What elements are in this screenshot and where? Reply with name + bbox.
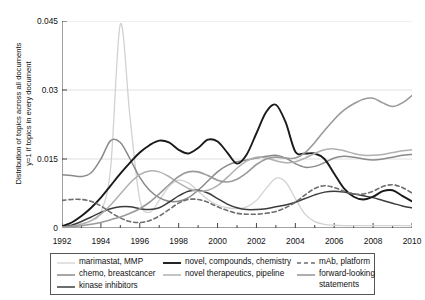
legend-line-icon [297, 270, 315, 280]
x-tick-label: 2000 [208, 236, 227, 246]
legend-item[interactable]: forward-looking statements [297, 269, 397, 280]
legend-line-icon [163, 270, 181, 280]
series-line-1 [62, 139, 412, 202]
x-tick-label: 1996 [130, 236, 149, 246]
x-tick-label: 1994 [92, 236, 111, 246]
legend-line-icon [57, 270, 75, 280]
legend-line-icon [297, 258, 315, 268]
y-tick-label: 0 [53, 223, 58, 233]
x-tick-label: 2010 [403, 236, 422, 246]
series-line-5 [62, 185, 412, 223]
legend-line-icon [57, 258, 75, 268]
legend-label: novel therapeutics, pipeline [185, 269, 284, 279]
x-tick-label: 2002 [247, 236, 266, 246]
legend-label: forward-looking statements [319, 269, 397, 290]
legend-label: kinase inhibitors [79, 281, 138, 291]
chart-root: Distribution of topics across all docume… [0, 0, 425, 300]
legend-item[interactable]: novel therapeutics, pipeline [163, 269, 291, 280]
x-tick-label: 2004 [286, 236, 305, 246]
plot-svg [62, 21, 412, 228]
legend-label: novel, compounds, chemistry [185, 257, 291, 267]
x-tick-label: 1992 [53, 236, 72, 246]
legend-line-icon [163, 258, 181, 268]
legend-item[interactable]: kinase inhibitors [57, 281, 155, 292]
legend-label: chemo, breastcancer [79, 269, 155, 279]
legend-item[interactable]: novel, compounds, chemistry [163, 257, 291, 268]
x-tick-label: 1998 [169, 236, 188, 246]
legend-item[interactable]: mAb, platform [297, 257, 397, 268]
legend-label: mAb, platform [319, 257, 370, 267]
legend-column-1: marimastat, MMPchemo, breastcancerkinase… [57, 257, 155, 293]
y-tick-label: 0.015 [37, 154, 58, 164]
legend: marimastat, MMPchemo, breastcancerkinase… [50, 253, 375, 295]
legend-item[interactable]: chemo, breastcancer [57, 269, 155, 280]
legend-label: marimastat, MMP [79, 257, 143, 267]
legend-item[interactable]: marimastat, MMP [57, 257, 155, 268]
plot-area: 00.0150.030.045 199219941996199820002002… [62, 21, 412, 228]
legend-column-2: novel, compounds, chemistrynovel therape… [163, 257, 291, 281]
legend-line-icon [57, 282, 75, 292]
y-tick-label: 0.03 [42, 85, 58, 95]
y-tick-label: 0.045 [37, 16, 58, 26]
x-tick-label: 2008 [364, 236, 383, 246]
x-tick-label: 2006 [325, 236, 344, 246]
y-axis-label: Distribution of topics across all docume… [14, 4, 33, 224]
legend-column-3: mAb, platformforward-looking statements [297, 257, 397, 281]
